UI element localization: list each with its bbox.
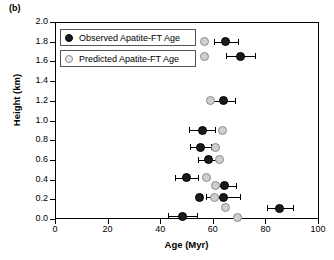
data-point-predicted <box>233 213 242 222</box>
y-tick <box>50 61 55 62</box>
error-bar-cap <box>238 39 239 45</box>
y-tick-label: 2.0 <box>18 16 48 26</box>
error-bar-cap <box>240 194 241 200</box>
data-point-predicted <box>210 193 219 202</box>
y-tick <box>50 121 55 122</box>
y-tick-label: 0.0 <box>18 213 48 223</box>
x-tick-label: 60 <box>193 224 233 234</box>
legend-label-predicted: Predicted Apatite-FT Age <box>79 54 179 64</box>
error-bar-cap <box>168 213 169 219</box>
error-bar-cap <box>198 175 199 181</box>
error-bar-cap <box>190 144 191 150</box>
x-tick-label: 80 <box>245 224 285 234</box>
y-tick <box>50 42 55 43</box>
figure-panel: (b) 020406080100 0.00.20.40.60.81.01.21.… <box>0 0 334 260</box>
legend-item-observed: Observed Apatite-FT Age <box>60 29 196 46</box>
y-tick-label: 1.6 <box>18 55 48 65</box>
y-tick <box>50 81 55 82</box>
y-tick-label: 1.2 <box>18 95 48 105</box>
y-tick <box>50 101 55 102</box>
data-point-predicted <box>218 126 227 135</box>
error-bar-cap <box>236 183 237 189</box>
data-point-observed <box>195 193 204 202</box>
error-bar-cap <box>198 157 199 163</box>
y-tick-label: 1.4 <box>18 75 48 85</box>
data-point-observed <box>198 126 207 135</box>
error-bar-cap <box>235 98 236 104</box>
x-tick-label: 20 <box>88 224 128 234</box>
open-circle-icon <box>65 55 73 63</box>
x-tick-label: 100 <box>298 224 334 234</box>
data-point-predicted <box>211 143 220 152</box>
x-tick-label: 40 <box>140 224 180 234</box>
y-tick-label: 0.6 <box>18 154 48 164</box>
y-tick <box>50 22 55 23</box>
panel-label: (b) <box>9 3 21 13</box>
data-point-observed <box>219 193 228 202</box>
y-tick <box>50 160 55 161</box>
error-bar-cap <box>206 194 207 200</box>
data-point-predicted <box>211 181 220 190</box>
error-bar-cap <box>267 205 268 211</box>
y-tick-label: 1.8 <box>18 36 48 46</box>
x-tick-label: 0 <box>35 224 75 234</box>
data-point-predicted <box>206 96 215 105</box>
y-tick <box>50 140 55 141</box>
error-bar-cap <box>175 175 176 181</box>
y-tick-label: 0.4 <box>18 174 48 184</box>
error-bar-cap <box>189 127 190 133</box>
error-bar-cap <box>226 53 227 59</box>
y-tick <box>50 219 55 220</box>
y-tick <box>50 199 55 200</box>
data-point-observed <box>178 212 187 221</box>
error-bar-cap <box>293 205 294 211</box>
data-point-observed <box>275 204 284 213</box>
y-tick-label: 0.8 <box>18 134 48 144</box>
y-axis-label: Height (km) <box>11 40 22 160</box>
y-tick <box>50 180 55 181</box>
filled-circle-icon <box>65 34 73 42</box>
x-axis-label: Age (Myr) <box>55 239 318 250</box>
data-point-observed <box>236 52 245 61</box>
y-tick-label: 0.2 <box>18 193 48 203</box>
axis-right <box>318 22 319 219</box>
axis-top <box>55 22 318 23</box>
y-tick-label: 1.0 <box>18 115 48 125</box>
data-point-predicted <box>202 173 211 182</box>
legend-item-predicted: Predicted Apatite-FT Age <box>60 50 196 67</box>
error-bar-cap <box>214 39 215 45</box>
legend-label-observed: Observed Apatite-FT Age <box>79 33 180 43</box>
error-bar-cap <box>255 53 256 59</box>
error-bar-cap <box>215 127 216 133</box>
error-bar-cap <box>197 213 198 219</box>
